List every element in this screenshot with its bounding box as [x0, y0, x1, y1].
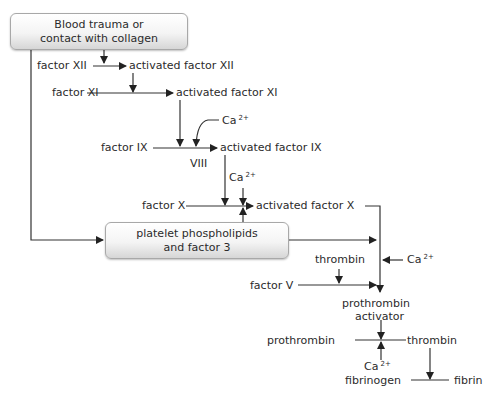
calcium-text: Ca: [229, 171, 243, 184]
label-thrombin-2: thrombin: [407, 334, 457, 347]
platelet-box: platelet phospholipids and factor 3: [105, 222, 289, 259]
coagulation-cascade-diagram: Blood trauma or contact with collagen pl…: [0, 0, 494, 398]
label-factor-v: factor V: [250, 279, 293, 292]
charge-superscript: 2+: [238, 114, 248, 122]
calcium-text: Ca: [222, 114, 236, 127]
platelet-box-line2: and factor 3: [164, 241, 231, 255]
label-factor-xi: factor XI: [52, 86, 99, 99]
label-factor-ix: factor IX: [101, 141, 148, 154]
label-calcium-3: Ca2+: [407, 253, 434, 268]
label-activated-factor-x: activated factor X: [256, 199, 354, 212]
trigger-box: Blood trauma or contact with collagen: [10, 13, 188, 50]
label-factor-xii: factor XII: [37, 59, 87, 72]
label-factor-x: factor X: [142, 199, 185, 212]
label-thrombin-1: thrombin: [315, 253, 365, 266]
label-viii: VIII: [190, 157, 207, 170]
label-prothrombin: prothrombin: [267, 334, 335, 347]
trigger-box-line2: contact with collagen: [40, 32, 158, 46]
label-calcium-4: Ca2+: [364, 360, 391, 375]
label-calcium-2: Ca2+: [229, 171, 256, 186]
label-calcium-1: Ca2+: [222, 114, 249, 129]
calcium-text: Ca: [407, 253, 421, 266]
label-activated-factor-xii: activated factor XII: [129, 59, 234, 72]
label-prothrombin-activator-line1: prothrombin: [342, 297, 410, 310]
charge-superscript: 2+: [380, 360, 390, 368]
label-fibrinogen: fibrinogen: [345, 374, 401, 387]
charge-superscript: 2+: [245, 171, 255, 179]
label-fibrin: fibrin: [454, 374, 482, 387]
trigger-box-line1: Blood trauma or: [54, 18, 143, 32]
label-activated-factor-xi: activated factor XI: [176, 86, 277, 99]
calcium-text: Ca: [364, 360, 378, 373]
label-activated-factor-ix: activated factor IX: [220, 141, 321, 154]
charge-superscript: 2+: [423, 253, 433, 261]
platelet-box-line1: platelet phospholipids: [136, 227, 257, 241]
label-prothrombin-activator-line2: activator: [355, 310, 404, 323]
